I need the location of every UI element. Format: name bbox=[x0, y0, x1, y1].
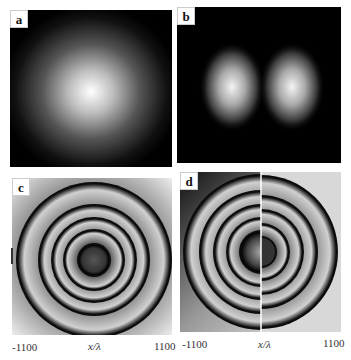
axis-label-c: x/λ bbox=[88, 340, 101, 352]
phase-rings-image bbox=[12, 178, 172, 335]
intensity-gaussian-image bbox=[10, 10, 172, 167]
panel-a: a bbox=[10, 10, 172, 167]
tick-d-min: -1100 bbox=[182, 338, 207, 350]
axis-label-d: x/λ bbox=[258, 338, 271, 350]
panel-label-a: a bbox=[10, 10, 28, 28]
panel-c: c bbox=[12, 178, 172, 335]
axis-marker bbox=[11, 248, 13, 264]
panel-label-d: d bbox=[180, 172, 198, 190]
panel-label-b: b bbox=[177, 7, 195, 25]
panel-label-c: c bbox=[12, 178, 30, 196]
intensity-two-lobe-image bbox=[177, 7, 341, 163]
tick-d-max: 1100 bbox=[323, 337, 345, 349]
tick-c-max: 1100 bbox=[154, 340, 176, 352]
tick-c-min: -1100 bbox=[12, 341, 37, 353]
panel-d: d bbox=[180, 172, 341, 332]
phase-rings-dislocation-image bbox=[180, 172, 341, 332]
panel-b: b bbox=[177, 7, 341, 163]
